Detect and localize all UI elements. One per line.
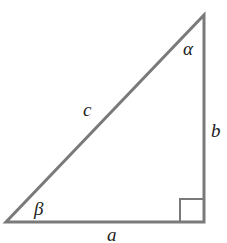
hypotenuse-c-label: c [83,100,91,119]
side-b-label: b [211,121,221,140]
angle-alpha-label: α [183,39,193,58]
right-triangle-diagram: α β c b a [0,0,227,243]
side-a-label: a [107,225,117,243]
angle-beta-label: β [34,199,43,218]
right-angle-marker [180,199,204,222]
triangle-outline [6,15,204,222]
